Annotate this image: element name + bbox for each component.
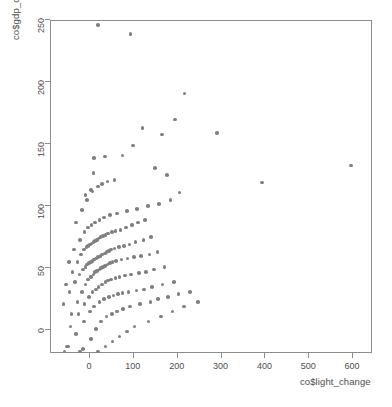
x-tick-mark bbox=[89, 353, 90, 358]
x-tick-mark bbox=[133, 353, 134, 358]
y-tick-label: 250 bbox=[36, 18, 46, 59]
scatter-plot-figure: co$gdp_change co$light_change 0501001502… bbox=[0, 0, 392, 407]
y-tick-label: 0 bbox=[36, 328, 46, 369]
x-tick-label: 200 bbox=[157, 361, 197, 371]
plot-panel-frame bbox=[50, 20, 372, 353]
y-tick-label: 200 bbox=[36, 80, 46, 121]
x-tick-mark bbox=[308, 353, 309, 358]
y-tick-label: 150 bbox=[36, 142, 46, 183]
x-tick-label: 600 bbox=[332, 361, 372, 371]
y-tick-label: 100 bbox=[36, 204, 46, 245]
y-axis-title: co$gdp_change bbox=[10, 0, 21, 40]
x-tick-mark bbox=[352, 353, 353, 358]
x-tick-label: 500 bbox=[288, 361, 328, 371]
x-tick-mark bbox=[177, 353, 178, 358]
x-tick-mark bbox=[264, 353, 265, 358]
x-tick-mark bbox=[221, 353, 222, 358]
x-tick-label: 300 bbox=[201, 361, 241, 371]
y-tick-label: 50 bbox=[36, 266, 46, 307]
x-tick-label: 400 bbox=[244, 361, 284, 371]
x-tick-label: 100 bbox=[113, 361, 153, 371]
x-axis-title: co$light_change bbox=[300, 376, 371, 387]
x-tick-label: 0 bbox=[69, 361, 109, 371]
